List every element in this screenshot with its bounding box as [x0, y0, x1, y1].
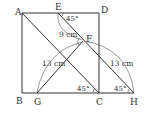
label-d: D: [101, 5, 108, 15]
angle-label-e: 45°: [66, 15, 78, 23]
label-e: E: [55, 2, 62, 12]
measure-gf: 13 cm: [42, 59, 65, 68]
angle-label-c: 45°: [77, 85, 89, 93]
label-g: G: [34, 97, 41, 107]
geometry-diagram: A E D F B G C H 9 cm 13 cm 13 cm 45° 45°…: [0, 0, 148, 114]
measure-fh: 13 cm: [110, 59, 133, 68]
label-c: C: [96, 97, 103, 107]
angle-label-h: 45°: [114, 85, 126, 93]
label-b: B: [16, 96, 23, 106]
measure-ef: 9 cm: [59, 30, 77, 39]
label-a: A: [14, 7, 22, 17]
label-h: H: [130, 97, 138, 107]
segment-eh: [58, 13, 134, 93]
segment-ac: [22, 13, 99, 93]
label-f: F: [86, 34, 92, 44]
